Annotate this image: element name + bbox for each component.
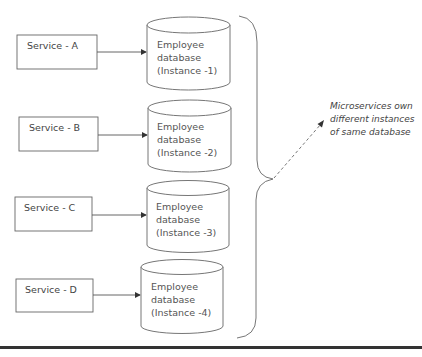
service-box-a: Service - A <box>17 35 97 69</box>
db2-line-3: (Instance -2) <box>157 147 217 158</box>
service-label-d: Service - D <box>25 284 77 295</box>
db1-line-1: Employee <box>157 39 204 50</box>
db1-line-3: (Instance -1) <box>157 65 217 76</box>
dashed-arrow <box>274 124 321 178</box>
database-cylinder-2: Employee database (Instance -2) <box>148 100 231 172</box>
service-label-c: Service - C <box>24 202 76 213</box>
db3-line-1: Employee <box>156 201 203 212</box>
service-box-c: Service - C <box>15 197 92 231</box>
db4-line-1: Employee <box>151 281 198 292</box>
service-label-b: Service - B <box>29 122 80 133</box>
annotation-line-2: different instances <box>330 114 415 124</box>
db3-line-3: (Instance -3) <box>156 227 216 238</box>
service-box-d: Service - D <box>16 279 93 312</box>
db3-line-2: database <box>156 214 200 225</box>
db2-line-1: Employee <box>157 121 204 132</box>
service-label-a: Service - A <box>27 40 79 51</box>
annotation-note: Microservices own different instances of… <box>330 101 415 137</box>
db1-line-2: database <box>157 52 201 63</box>
database-cylinder-4: Employee database (Instance -4) <box>141 260 223 334</box>
database-cylinder-3: Employee database (Instance -3) <box>147 181 229 253</box>
bottom-rule <box>0 346 422 349</box>
annotation-line-3: of same database <box>330 127 411 137</box>
diagram-canvas: Service - A Employee database (Instance … <box>0 0 422 357</box>
annotation-line-1: Microservices own <box>330 101 413 111</box>
db4-line-2: database <box>151 294 195 305</box>
db2-line-2: database <box>157 134 201 145</box>
service-box-b: Service - B <box>19 117 98 151</box>
database-cylinder-1: Employee database (Instance -1) <box>147 17 230 90</box>
curly-brace <box>237 16 273 338</box>
db4-line-3: (Instance -4) <box>151 307 211 318</box>
